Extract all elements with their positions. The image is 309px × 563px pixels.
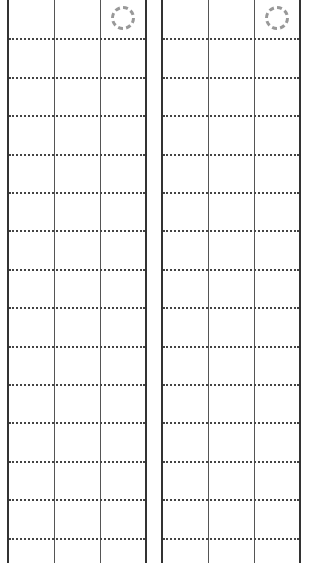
row-divider [9,499,145,501]
row-divider [9,346,145,348]
row-divider [163,307,299,309]
column-divider [254,0,255,563]
row-divider [163,499,299,501]
row-divider [9,192,145,194]
column-divider [208,0,209,563]
row-divider [9,461,145,463]
row-divider [163,346,299,348]
row-divider [9,77,145,79]
row-divider [163,269,299,271]
row-divider [9,307,145,309]
column-divider [100,0,101,563]
row-divider [9,230,145,232]
grid-panel-left [7,0,147,563]
row-divider [163,38,299,40]
row-divider [163,154,299,156]
dashed-circle-icon [264,5,288,29]
row-divider [163,384,299,386]
row-divider [9,115,145,117]
row-divider [163,192,299,194]
dashed-circle-icon [110,5,134,29]
row-divider [9,269,145,271]
row-divider [9,422,145,424]
row-divider [9,38,145,40]
row-divider [163,461,299,463]
row-divider [9,154,145,156]
row-divider [163,230,299,232]
row-divider [163,77,299,79]
column-divider [54,0,55,563]
row-divider [163,115,299,117]
row-divider [163,422,299,424]
row-divider [9,538,145,540]
row-divider [163,538,299,540]
grid-panel-right [161,0,301,563]
row-divider [9,384,145,386]
